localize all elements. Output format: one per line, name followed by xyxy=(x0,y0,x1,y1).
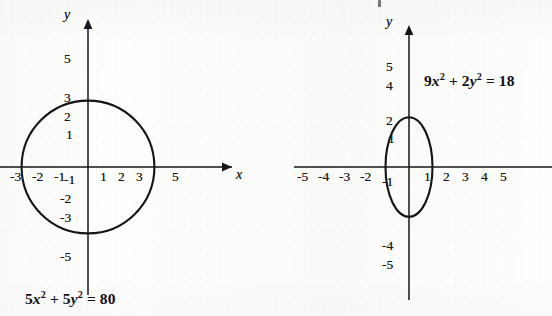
y-axis-label: y xyxy=(64,8,70,22)
eq-exp-b: 2 xyxy=(477,71,482,82)
y-axis-arrowhead xyxy=(84,19,93,29)
y-tick-neg-2: -2 xyxy=(60,192,71,206)
eq-equals: = xyxy=(486,72,495,89)
y-tick-4: 4 xyxy=(386,79,393,93)
x-tick-2: 2 xyxy=(118,170,125,184)
y-tick-neg-5: -5 xyxy=(60,250,71,264)
eq-plus: + xyxy=(449,72,458,89)
y-tick-neg-1: -1 xyxy=(64,173,75,187)
y-tick-neg-3: -3 xyxy=(60,211,71,225)
x-axis-arrowhead xyxy=(222,163,232,172)
eq-rhs: 80 xyxy=(100,290,116,307)
eq-equals: = xyxy=(87,290,96,307)
y-axis-label: y xyxy=(386,15,392,29)
x-tick-neg-2: -2 xyxy=(360,170,371,184)
y-axis-arrowhead xyxy=(405,25,414,35)
y-tick-2: 2 xyxy=(386,114,393,128)
ellipse-plot-panel: 5 4 2 1 -1 -4 -5 -5 -4 -3 -2 1 2 3 4 5 y… xyxy=(276,0,552,316)
eq-rhs: 18 xyxy=(499,72,515,89)
y-tick-neg-1: -1 xyxy=(382,175,393,189)
circle-equation: 5x2 + 5y2 = 80 xyxy=(25,290,116,307)
x-tick-neg-2: -2 xyxy=(32,170,43,184)
ellipse-equation: 9x2 + 2y2 = 18 xyxy=(424,72,515,89)
x-tick-neg-1: -1 xyxy=(54,170,65,184)
eq-lead-a: 5 xyxy=(25,290,33,307)
eq-lead-b: 5 xyxy=(63,290,71,307)
x-tick-neg-3: -3 xyxy=(10,170,21,184)
x-tick-neg-3: -3 xyxy=(339,170,350,184)
y-tick-3: 3 xyxy=(64,91,71,105)
eq-var-b: y xyxy=(470,72,477,89)
figure-page: 5 3 2 1 -1 -2 -3 -5 -3 -2 -1 1 2 3 5 y x… xyxy=(0,0,552,316)
eq-plus: + xyxy=(50,290,59,307)
y-tick-neg-4: -4 xyxy=(382,239,393,253)
x-tick-5: 5 xyxy=(500,170,507,184)
x-tick-2: 2 xyxy=(443,170,450,184)
x-tick-4: 4 xyxy=(481,170,488,184)
eq-exp-a: 2 xyxy=(440,71,445,82)
eq-var-a: x xyxy=(432,72,440,89)
x-tick-5: 5 xyxy=(172,170,179,184)
x-tick-1: 1 xyxy=(424,170,431,184)
x-tick-3: 3 xyxy=(136,170,143,184)
eq-lead-b: 2 xyxy=(462,72,470,89)
x-tick-neg-5: -5 xyxy=(297,170,308,184)
y-tick-1: 1 xyxy=(388,132,395,146)
eq-var-b: y xyxy=(71,290,78,307)
x-tick-1: 1 xyxy=(100,170,107,184)
y-tick-2: 2 xyxy=(64,110,71,124)
circle-plot-panel: 5 3 2 1 -1 -2 -3 -5 -3 -2 -1 1 2 3 5 y x… xyxy=(0,0,276,316)
circle-plot-graphics xyxy=(0,0,276,316)
y-tick-5: 5 xyxy=(64,52,71,66)
x-tick-neg-4: -4 xyxy=(318,170,329,184)
y-tick-5: 5 xyxy=(386,60,393,74)
eq-lead-a: 9 xyxy=(424,72,432,89)
eq-var-a: x xyxy=(33,290,41,307)
x-tick-3: 3 xyxy=(462,170,469,184)
y-tick-neg-5: -5 xyxy=(382,258,393,272)
eq-exp-b: 2 xyxy=(78,289,83,300)
scan-artifact-smudge xyxy=(378,0,381,7)
y-tick-1: 1 xyxy=(66,128,73,142)
ellipse-plot-graphics xyxy=(276,0,552,316)
eq-exp-a: 2 xyxy=(41,289,46,300)
x-axis-label: x xyxy=(236,168,242,182)
